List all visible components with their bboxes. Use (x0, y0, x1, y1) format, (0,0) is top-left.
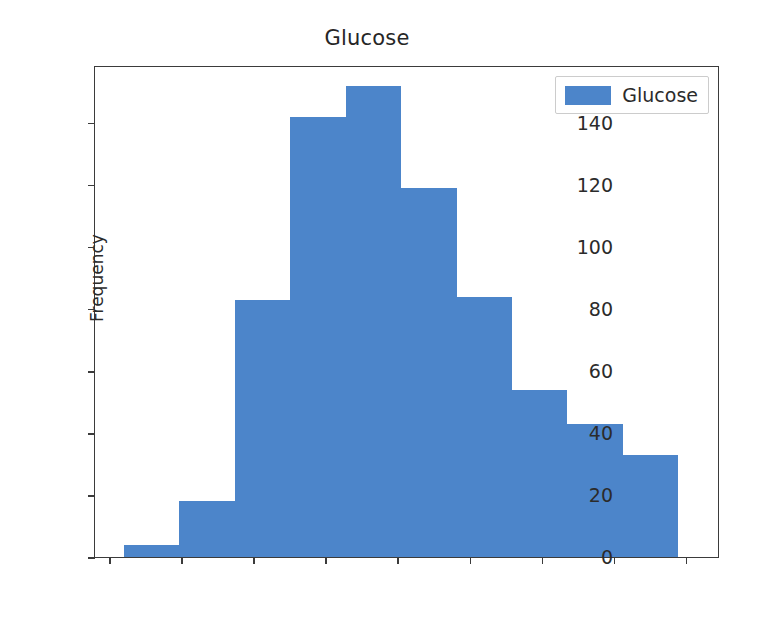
x-tick-mark (397, 557, 399, 564)
plot-area (95, 67, 718, 557)
x-tick-mark (253, 557, 255, 564)
histogram-bar (235, 300, 290, 557)
y-tick-label: 140 (543, 112, 613, 134)
y-tick-label: 60 (543, 360, 613, 382)
y-tick-label: 100 (543, 236, 613, 258)
x-tick-mark (686, 557, 688, 564)
y-tick-mark (88, 123, 95, 125)
y-tick-mark (88, 309, 95, 311)
y-tick-label: 120 (543, 174, 613, 196)
legend-swatch-glucose (565, 86, 611, 105)
y-tick-mark (88, 371, 95, 373)
y-tick-mark (88, 495, 95, 497)
x-tick-mark (109, 557, 111, 564)
chart-title: Glucose (0, 26, 770, 50)
x-tick-mark (325, 557, 327, 564)
histogram-figure: Glucose Frequency Glucose 02040608010012… (0, 0, 770, 619)
x-tick-mark (614, 557, 616, 564)
histogram-bar (457, 297, 512, 558)
y-tick-label: 80 (543, 298, 613, 320)
histogram-bar (401, 188, 456, 557)
x-tick-mark (470, 557, 472, 564)
y-tick-label: 0 (543, 546, 613, 568)
y-tick-mark (88, 433, 95, 435)
histogram-bar (623, 455, 678, 557)
histogram-bar (346, 86, 401, 557)
histogram-bar (179, 501, 234, 557)
histogram-bar (290, 117, 345, 557)
x-tick-mark (181, 557, 183, 564)
y-tick-mark (88, 185, 95, 187)
histogram-bar (124, 545, 179, 557)
x-tick-mark (542, 557, 544, 564)
plot-axes: Frequency Glucose 0204060801001201404060… (94, 66, 719, 558)
y-tick-mark (88, 557, 95, 559)
legend-label-glucose: Glucose (622, 84, 698, 106)
y-tick-mark (88, 247, 95, 249)
chart-title-text: Glucose (324, 26, 409, 50)
histogram-bar (512, 390, 567, 557)
chart-legend[interactable]: Glucose (555, 76, 709, 114)
y-tick-label: 20 (543, 484, 613, 506)
y-tick-label: 40 (543, 422, 613, 444)
